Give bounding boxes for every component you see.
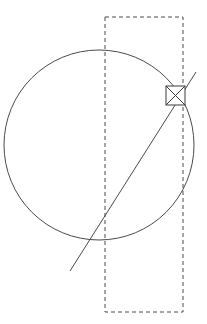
line-drawing-canvas	[0, 0, 207, 324]
figure-root	[0, 0, 207, 324]
circle	[4, 50, 194, 240]
